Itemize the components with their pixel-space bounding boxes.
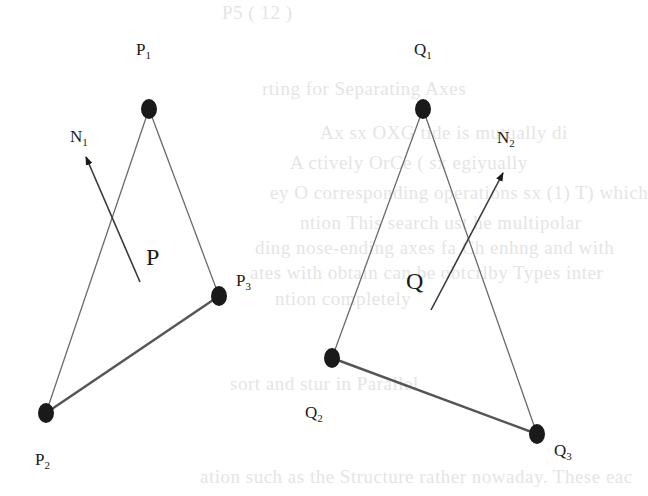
vertex-label-p1: P1	[136, 40, 151, 61]
normal-label-n2: N2	[497, 128, 515, 149]
vertex-label-p3: P3	[236, 271, 251, 292]
normal-label-n1: N1	[70, 127, 88, 148]
vertex-q3-dot	[529, 424, 545, 444]
normal-arrow-n1	[86, 157, 140, 282]
normal-arrow-n2	[431, 173, 503, 310]
point-label-q: Q	[406, 268, 423, 294]
vertex-label-p2: P2	[35, 450, 50, 471]
right-triangle-q: N2Q1Q2Q3Q	[305, 40, 572, 462]
edge-q1-q3	[423, 109, 537, 434]
vertex-label-q2: Q2	[305, 403, 323, 424]
point-label-p: P	[146, 244, 159, 270]
edge-q2-q3	[332, 358, 537, 434]
edge-p1-p3	[149, 109, 219, 296]
edge-p1-p2	[46, 109, 149, 413]
edge-q1-q2	[332, 109, 423, 358]
left-triangle-p: N1P1P2P3P	[35, 40, 251, 471]
vertex-p3-dot	[211, 286, 227, 306]
vertex-q2-dot	[324, 348, 340, 368]
edge-p2-p3	[46, 296, 219, 413]
vertex-label-q3: Q3	[554, 441, 572, 462]
vertex-q1-dot	[415, 99, 431, 119]
vertex-p1-dot	[141, 99, 157, 119]
vertex-p2-dot	[38, 403, 54, 423]
vertex-label-q1: Q1	[414, 40, 432, 61]
